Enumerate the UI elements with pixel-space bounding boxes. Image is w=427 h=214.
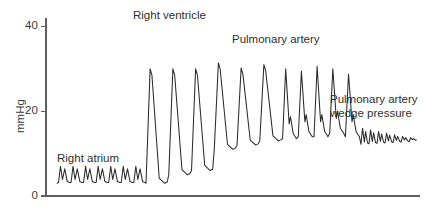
y-axis-ticks	[41, 26, 46, 196]
annotation-right-atrium: Right atrium	[57, 152, 119, 166]
annotation-pawp-line-1: Pulmonary artery	[330, 93, 418, 105]
annotation-right-atrium-label: Right atrium	[57, 152, 119, 164]
annotation-pawp-line-2: wedge pressure	[330, 107, 412, 119]
annotation-right-ventricle-label: Right ventricle	[133, 9, 206, 21]
y-axis-tick-label: 40	[25, 19, 38, 31]
annotation-pulmonary-artery-wedge-pressure: Pulmonary artery wedge pressure	[330, 93, 418, 120]
annotation-pulmonary-artery-label: Pulmonary artery	[232, 33, 320, 45]
annotation-pulmonary-artery: Pulmonary artery	[232, 33, 320, 47]
y-axis-tick-label: 0	[32, 189, 39, 201]
y-axis-title: mmHg	[14, 99, 26, 133]
pressure-waveform-figure: 02040 mmHg Right atrium Right ventricle …	[0, 0, 427, 214]
annotation-right-ventricle: Right ventricle	[133, 9, 206, 23]
y-axis-tick-label: 20	[25, 104, 38, 116]
